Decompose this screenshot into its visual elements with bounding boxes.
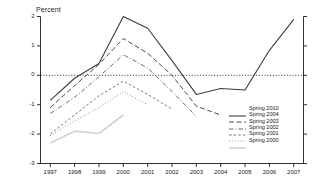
legend-label: Spring 2010: [249, 105, 279, 111]
y-tick-label: 1: [15, 42, 35, 48]
percent-line-chart: Percent Spring 2010Spring 2004Spring 200…: [0, 0, 325, 189]
legend-swatch-icon: [229, 130, 246, 136]
series-line-spring-2002: [50, 81, 172, 134]
x-tick-label: 2000: [111, 169, 135, 175]
x-tick-label: 2003: [184, 169, 208, 175]
legend-swatch-icon: [229, 105, 246, 111]
x-tick-label: 2004: [209, 169, 233, 175]
y-tick-label: -2: [15, 130, 35, 136]
x-tick-label: 2006: [257, 169, 281, 175]
legend-label: Spring 2002: [249, 124, 279, 130]
legend-label: Spring 2000: [249, 137, 279, 143]
y-tick-label: -1: [15, 101, 35, 107]
plot-area: [0, 0, 325, 189]
legend-item: Spring 2010: [229, 105, 279, 111]
legend-label: Spring 2004: [249, 111, 279, 117]
x-tick-label: 1998: [63, 169, 87, 175]
series-line-spring-2001: [50, 91, 147, 135]
y-tick-label: 0: [15, 71, 35, 77]
legend-item: Spring 2003: [229, 118, 279, 124]
x-tick-label: 2007: [282, 169, 306, 175]
x-tick-label: 2005: [233, 169, 257, 175]
legend-swatch-icon: [229, 137, 246, 143]
legend-item: Spring 2001: [229, 130, 279, 136]
y-tick-label: -3: [15, 160, 35, 166]
x-tick-label: 1999: [87, 169, 111, 175]
legend-swatch-icon: [229, 124, 246, 130]
y-tick-label: 2: [15, 13, 35, 19]
series-line-spring-2010: [50, 17, 294, 101]
legend-label: Spring 2001: [249, 130, 279, 136]
series-line-spring-2000: [50, 115, 123, 143]
chart-legend: Spring 2010Spring 2004Spring 2003Spring …: [229, 105, 279, 143]
x-tick-label: 2002: [160, 169, 184, 175]
x-tick-label: 1997: [38, 169, 62, 175]
legend-item: Spring 2002: [229, 124, 279, 130]
legend-item: Spring 2004: [229, 111, 279, 117]
series-line-spring-2004: [50, 39, 220, 115]
legend-swatch-icon: [229, 118, 246, 124]
legend-item: Spring 2000: [229, 136, 279, 142]
x-tick-label: 2001: [136, 169, 160, 175]
legend-swatch-icon: [229, 111, 246, 117]
legend-label: Spring 2003: [249, 118, 279, 124]
